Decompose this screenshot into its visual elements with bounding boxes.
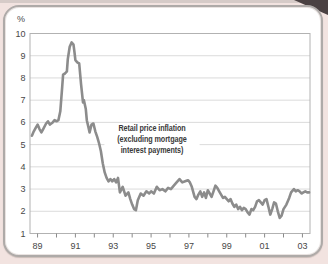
annotation-line-3: interest payments) xyxy=(104,145,199,156)
y-axis-unit-label: % xyxy=(17,14,25,24)
annotation-line-2: (excluding mortgage xyxy=(104,134,199,145)
y-tick-label: 10 xyxy=(15,29,25,39)
y-tick-label: 7 xyxy=(20,95,25,105)
y-tick-label: 5 xyxy=(20,140,25,150)
y-tick-label: 2 xyxy=(20,206,25,216)
x-tick-label: 95 xyxy=(146,241,156,251)
y-tick-label: 3 xyxy=(20,184,25,194)
y-tick-label: 6 xyxy=(20,117,25,127)
x-tick-label: 99 xyxy=(222,241,232,251)
series-annotation: Retail price inflation (excluding mortga… xyxy=(104,123,199,156)
y-tick-label: 1 xyxy=(20,229,25,239)
y-tick-label: 9 xyxy=(20,51,25,61)
x-tick-label: 03 xyxy=(297,241,307,251)
y-tick-label: 4 xyxy=(20,162,25,172)
x-tick-label: 91 xyxy=(70,241,80,251)
x-tick-label: 97 xyxy=(184,241,194,251)
x-tick-label: 93 xyxy=(108,241,118,251)
y-tick-label: 8 xyxy=(20,73,25,83)
x-tick-label: 01 xyxy=(260,241,270,251)
annotation-line-1: Retail price inflation xyxy=(104,123,199,134)
x-tick-label: 89 xyxy=(33,241,43,251)
figure-panel: 123456789108991939597990103 % Retail pri… xyxy=(0,0,328,264)
